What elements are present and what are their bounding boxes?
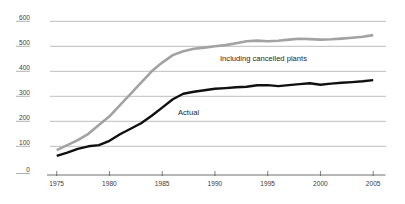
x-tick-label: 2000 xyxy=(313,180,328,187)
y-tick-label: 500 xyxy=(19,39,30,46)
series-label-including-cancelled-plants: Including cancelled plants xyxy=(220,54,307,63)
y-tick-label: 0 xyxy=(26,166,30,173)
series-label-actual: Actual xyxy=(178,108,199,117)
nuclear-capacity-line-chart: 6005004003002001000197519801985199019952… xyxy=(0,0,405,204)
x-tick-label: 2005 xyxy=(366,180,381,187)
x-tick-label: 1985 xyxy=(155,180,170,187)
x-tick-label: 1990 xyxy=(208,180,223,187)
y-tick-label: 200 xyxy=(19,114,30,121)
chart-canvas: 6005004003002001000197519801985199019952… xyxy=(0,0,405,204)
y-tick-label: 400 xyxy=(19,64,30,71)
y-tick-label: 300 xyxy=(19,89,30,96)
y-tick-label: 100 xyxy=(19,139,30,146)
series-line-actual xyxy=(57,80,374,156)
series-line-including-cancelled-plants xyxy=(57,35,374,150)
x-tick-label: 1995 xyxy=(260,180,275,187)
y-tick-label: 600 xyxy=(19,14,30,21)
x-tick-label: 1980 xyxy=(102,180,117,187)
x-tick-label: 1975 xyxy=(49,180,64,187)
